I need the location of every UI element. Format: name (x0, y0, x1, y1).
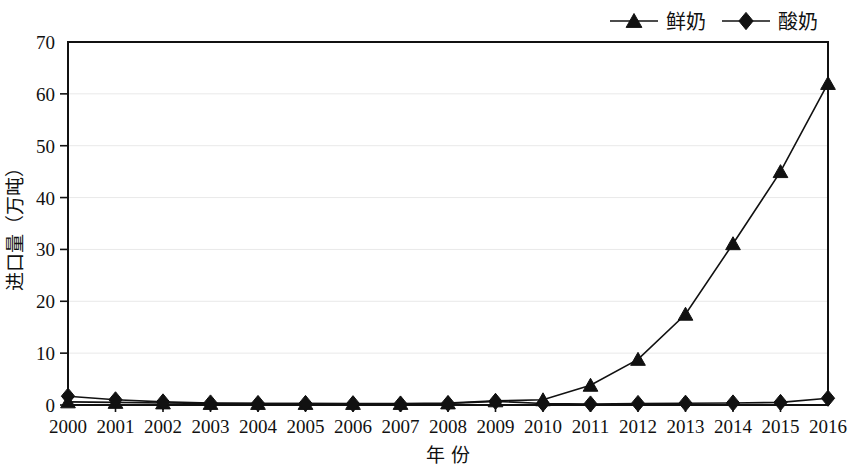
x-axis-tick-label: 2005 (287, 416, 325, 437)
x-axis-tick-label: 2007 (382, 416, 420, 437)
x-axis-tick-label: 2001 (97, 416, 135, 437)
chart-canvas: 010203040506070 200020012002200320042005… (0, 0, 850, 467)
y-axis-tick-label: 20 (36, 291, 55, 312)
legend-label: 酸奶 (778, 11, 818, 33)
y-axis-tick-label: 50 (36, 136, 55, 157)
y-axis-tick-label: 70 (36, 32, 55, 53)
y-axis-title: 进口量（万吨） (5, 158, 26, 291)
y-axis-tick-labels-group: 010203040506070 (36, 32, 55, 416)
x-axis-title: 年 份 (426, 445, 469, 466)
y-axis-ticks-group (60, 94, 68, 405)
x-axis-tick-label: 2014 (714, 416, 753, 437)
series-2 (61, 388, 834, 412)
x-axis-tick-label: 2016 (809, 416, 847, 437)
data-point-marker (726, 237, 741, 250)
data-point-marker (583, 378, 598, 391)
x-axis-tick-label: 2009 (477, 416, 515, 437)
x-axis-tick-label: 2010 (524, 416, 562, 437)
series-group (61, 76, 836, 412)
data-point-marker (774, 394, 787, 410)
data-point-marker (726, 395, 739, 411)
x-axis-tick-label: 2000 (49, 416, 87, 437)
data-point-marker (631, 395, 644, 411)
y-axis-tick-label: 30 (36, 239, 55, 260)
x-axis-tick-label: 2008 (429, 416, 467, 437)
legend-marker-diamond (739, 12, 753, 29)
x-axis-tick-label: 2002 (144, 416, 182, 437)
x-axis-tick-label: 2006 (334, 416, 372, 437)
data-point-marker (679, 395, 692, 411)
y-axis-tick-label: 10 (36, 343, 55, 364)
line-chart-figure: 010203040506070 200020012002200320042005… (0, 0, 850, 467)
series-line (68, 83, 828, 403)
data-point-marker (678, 307, 693, 320)
x-axis-tick-label: 2013 (667, 416, 705, 437)
data-point-marker (773, 165, 788, 178)
y-axis-tick-label: 60 (36, 84, 55, 105)
data-point-marker (584, 396, 597, 412)
x-axis-tick-label: 2012 (619, 416, 657, 437)
data-point-marker (821, 390, 834, 406)
series-1 (61, 76, 836, 409)
x-axis-tick-label: 2004 (239, 416, 278, 437)
x-axis-tick-labels-group: 2000200120022003200420052006200720082009… (49, 416, 847, 437)
plot-area-border (68, 42, 828, 405)
x-axis-tick-label: 2011 (572, 416, 609, 437)
gridlines-group (68, 94, 828, 353)
x-axis-tick-label: 2003 (192, 416, 230, 437)
data-point-marker (821, 76, 836, 89)
y-axis-tick-label: 40 (36, 188, 55, 209)
y-axis-tick-label: 0 (46, 395, 56, 416)
legend: 鲜奶酸奶 (610, 11, 818, 33)
legend-label: 鲜奶 (666, 11, 706, 33)
x-axis-tick-label: 2015 (762, 416, 800, 437)
